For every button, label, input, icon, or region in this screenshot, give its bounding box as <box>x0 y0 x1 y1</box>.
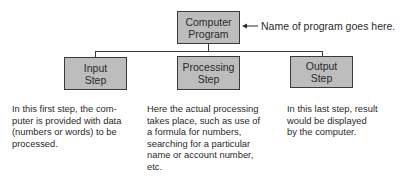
output-step-label-line-2: Step <box>311 72 333 84</box>
output-desc-line: by the computer. <box>287 126 378 138</box>
input-desc-line: puter is provided with data <box>12 115 121 127</box>
processing-desc-line: a formula for numbers, <box>147 126 260 138</box>
output-step-description: In this last step, result would be displ… <box>287 103 378 138</box>
processing-desc-line: name or account number, <box>147 149 260 161</box>
output-step-box: Output Step <box>290 56 353 88</box>
root-label-line-1: Computer <box>185 16 231 28</box>
input-desc-line: (numbers or words) to be <box>12 126 121 138</box>
computer-program-box: Computer Program <box>177 11 240 44</box>
processing-step-description: Here the actual processing takes place, … <box>147 103 260 172</box>
processing-desc-line: searching for a particular <box>147 138 260 150</box>
output-desc-line: would be displayed <box>287 115 378 127</box>
output-desc-line: In this last step, result <box>287 103 378 115</box>
connector-horizontal <box>95 51 323 52</box>
processing-step-box: Processing Step <box>177 56 240 90</box>
processing-step-label-line-2: Step <box>198 73 220 85</box>
processing-desc-line: takes place, such as use of <box>147 115 260 127</box>
arrow-left-icon <box>242 23 258 29</box>
output-step-label-line-1: Output <box>306 60 338 72</box>
root-annotation: Name of program goes here. <box>261 20 395 32</box>
input-step-label-line-2: Step <box>85 74 107 86</box>
input-step-box: Input Step <box>64 57 127 90</box>
processing-desc-line: etc. <box>147 161 260 173</box>
processing-desc-line: Here the actual processing <box>147 103 260 115</box>
input-step-description: In this first step, the com- puter is pr… <box>12 103 121 149</box>
root-label-line-2: Program <box>188 28 228 40</box>
input-desc-line: In this first step, the com- <box>12 103 121 115</box>
processing-step-label-line-1: Processing <box>183 61 235 73</box>
input-desc-line: processed. <box>12 138 121 150</box>
input-step-label-line-1: Input <box>84 62 107 74</box>
